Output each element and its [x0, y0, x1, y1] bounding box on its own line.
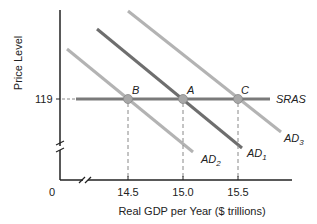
- x-tick-label-145: 14.5: [117, 186, 138, 198]
- y-tick-label-119: 119: [35, 93, 53, 105]
- ad1-label-sub: 1: [262, 153, 266, 162]
- ad1-curve: [97, 29, 242, 148]
- point-a-label: A: [186, 84, 194, 96]
- point-b-label: B: [132, 84, 139, 96]
- x-tick-label-150: 15.0: [172, 186, 193, 198]
- point-c-label: C: [241, 84, 249, 96]
- ad1-label-main: AD: [246, 147, 262, 159]
- ad2-label-sub: 2: [215, 159, 221, 168]
- ad2-label-main: AD: [200, 153, 216, 165]
- ad2-label: AD2: [200, 153, 221, 168]
- ad1-label: AD1: [246, 147, 267, 162]
- ad3-label: AD3: [283, 132, 304, 147]
- ad3-label-sub: 3: [299, 138, 304, 147]
- x-tick-label-0: 0: [49, 186, 55, 198]
- y-axis-title: Price Level: [12, 36, 24, 90]
- x-tick-label-155: 15.5: [227, 186, 248, 198]
- ad-sras-chart: B A C SRAS AD3 AD1 AD2 119 0 14.5 15.0 1…: [0, 0, 317, 224]
- x-axis-title: Real GDP per Year ($ trillions): [118, 205, 265, 217]
- sras-label: SRAS: [276, 93, 307, 105]
- ad3-label-main: AD: [283, 132, 299, 144]
